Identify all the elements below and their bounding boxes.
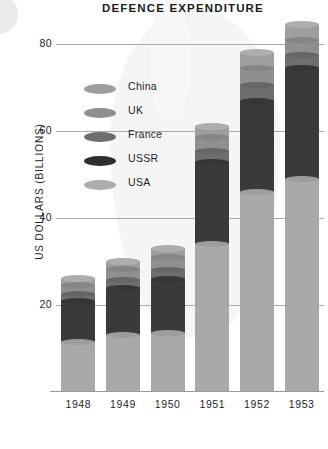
y-axis-tick-label: 80 (18, 37, 52, 49)
legend-swatch-icon (84, 180, 116, 190)
x-axis-tick-label: 1952 (234, 398, 280, 410)
bar-segment-cap (240, 98, 274, 104)
legend-label: France (128, 128, 162, 140)
x-axis-tick-label: 1951 (189, 398, 235, 410)
bar-group (56, 18, 324, 392)
legend-label: China (128, 80, 157, 92)
bar-segment[interactable] (240, 101, 274, 192)
bar-top-cap (285, 21, 319, 28)
bar-segment[interactable] (240, 192, 274, 392)
bar-segment-cap (61, 282, 95, 288)
bar-column[interactable] (240, 53, 274, 392)
legend-label: UK (128, 104, 143, 116)
bar-segment[interactable] (195, 244, 229, 392)
bar-segment-cap (240, 65, 274, 71)
bar-top-cap (151, 245, 185, 252)
bar-segment-cap (285, 52, 319, 58)
bar-segment-cap (106, 266, 140, 272)
bar-segment[interactable] (106, 335, 140, 392)
bar-segment-cap (240, 189, 274, 195)
chart-legend: ChinaUKFranceUSSRUSA (84, 80, 204, 200)
bar-segment-cap (285, 65, 319, 71)
y-axis-tick-label: 60 (18, 124, 52, 136)
bar-segment[interactable] (285, 179, 319, 392)
x-axis-tick-label: 1950 (145, 398, 191, 410)
y-axis-tick-label: 20 (18, 298, 52, 310)
bar-segment-cap (195, 241, 229, 247)
x-axis-tick-label: 1948 (55, 398, 101, 410)
chart-page: DEFENCE EXPENDITURE US DOLLARS (BILLIONS… (0, 0, 328, 449)
bar-segment[interactable] (61, 342, 95, 392)
legend-swatch-icon (84, 108, 116, 118)
bar-segment[interactable] (151, 279, 185, 333)
bar-segment-cap (151, 276, 185, 282)
legend-swatch-icon (84, 132, 116, 142)
legend-item[interactable]: USA (84, 176, 204, 200)
bar-segment-cap (151, 254, 185, 260)
bar-segment-cap (61, 339, 95, 345)
x-axis-tick-label: 1949 (100, 398, 146, 410)
y-axis-tick-label: 40 (18, 211, 52, 223)
bar-segment-cap (61, 298, 95, 304)
bar-segment-cap (61, 291, 95, 297)
bar-segment-cap (106, 277, 140, 283)
y-axis-ticks: 20406080 (8, 18, 52, 392)
bar-column[interactable] (285, 25, 319, 392)
bar-segment-cap (151, 267, 185, 273)
bar-segment-cap (240, 82, 274, 88)
legend-item[interactable]: UK (84, 104, 204, 128)
legend-label: USSR (128, 152, 158, 164)
bar-segment-cap (285, 176, 319, 182)
chart-title: DEFENCE EXPENDITURE (0, 2, 328, 14)
bar-segment-cap (151, 330, 185, 336)
x-axis-tick-label: 1953 (279, 398, 325, 410)
legend-swatch-icon (84, 156, 116, 166)
legend-swatch-icon (84, 84, 116, 94)
plot-area (56, 18, 324, 392)
bar-segment-cap (285, 37, 319, 43)
bar-segment[interactable] (285, 68, 319, 179)
legend-label: USA (128, 176, 151, 188)
bar-column[interactable] (151, 249, 185, 392)
bar-segment-cap (106, 285, 140, 291)
x-axis-ticks: 194819491950195119521953 (56, 398, 324, 418)
bar-segment-cap (106, 332, 140, 338)
bar-segment[interactable] (106, 288, 140, 336)
bar-segment[interactable] (151, 333, 185, 392)
bar-segment[interactable] (61, 301, 95, 342)
axis-baseline (50, 391, 324, 392)
bar-column[interactable] (106, 262, 140, 392)
legend-item[interactable]: China (84, 80, 204, 104)
legend-item[interactable]: USSR (84, 152, 204, 176)
legend-item[interactable]: France (84, 128, 204, 152)
bar-column[interactable] (61, 279, 95, 392)
